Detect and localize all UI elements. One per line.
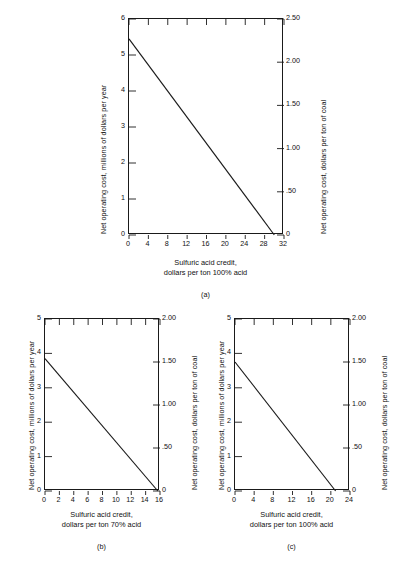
chart-panel-b: Net operating cost, millions of dollars … bbox=[18, 314, 198, 564]
x-axis-title-c-line1: Sulfuric acid credit, bbox=[250, 510, 333, 520]
y-axis-right-title-c: Net operating cost, dollars per ton of c… bbox=[381, 356, 390, 490]
y-right-tick-label-c-2: 1.00 bbox=[352, 399, 366, 408]
x-tick-label-c-6: 24 bbox=[345, 495, 353, 504]
y-tick-label-c-0: 0 bbox=[227, 485, 231, 494]
x-axis-title-a-line1: Sulfuric acid credit, bbox=[164, 258, 247, 268]
y-right-tick-label-a-4: 2.00 bbox=[286, 56, 300, 65]
y-right-tick-label-a-5: 2.50 bbox=[286, 13, 300, 22]
x-axis-title-b: Sulfuric acid credit, dollars per ton 70… bbox=[62, 510, 141, 530]
y-right-tick-label-a-3: 1.50 bbox=[286, 99, 300, 108]
y-tick-label-c-1: 1 bbox=[227, 451, 231, 460]
plot-line-b bbox=[45, 319, 160, 491]
y-tick-label-b-5: 5 bbox=[37, 313, 41, 322]
chart-panel-a: Net operating cost, millions of dollars … bbox=[88, 14, 328, 304]
x-tick-label-c-4: 16 bbox=[307, 495, 315, 504]
x-tick-label-a-1: 4 bbox=[145, 239, 149, 248]
x-axis-title-c-line2: dollars per ton 100% acid bbox=[250, 520, 333, 530]
plot-area-c bbox=[234, 318, 349, 490]
x-tick-label-b-6: 12 bbox=[126, 495, 134, 504]
y-tick-label-a-3: 3 bbox=[121, 121, 125, 130]
x-tick-label-b-1: 2 bbox=[56, 495, 60, 504]
x-axis-title-b-line2: dollars per ton 70% acid bbox=[62, 520, 141, 530]
x-tick-label-b-4: 8 bbox=[100, 495, 104, 504]
plot-area-b bbox=[44, 318, 159, 490]
y-right-tick-label-a-2: 1.00 bbox=[286, 143, 300, 152]
x-tick-label-c-1: 4 bbox=[251, 495, 255, 504]
x-tick-label-b-0: 0 bbox=[42, 495, 46, 504]
y-right-tick-label-c-4: 2.00 bbox=[352, 313, 366, 322]
x-tick-label-b-2: 4 bbox=[71, 495, 75, 504]
x-tick-label-b-7: 14 bbox=[141, 495, 149, 504]
y-tick-label-a-1: 1 bbox=[121, 193, 125, 202]
panel-label-a: (a) bbox=[201, 290, 210, 299]
y-right-tick-label-b-4: 2.00 bbox=[162, 313, 176, 322]
plot-line-a bbox=[129, 19, 284, 235]
y-tick-label-b-4: 4 bbox=[37, 347, 41, 356]
plot-line-c bbox=[235, 319, 350, 491]
x-axis-title-b-line1: Sulfuric acid credit, bbox=[62, 510, 141, 520]
y-right-tick-label-b-2: 1.00 bbox=[162, 399, 176, 408]
x-tick-label-a-0: 0 bbox=[126, 239, 130, 248]
x-axis-title-c: Sulfuric acid credit, dollars per ton 10… bbox=[250, 510, 333, 530]
y-axis-title-b: Net operating cost, millions of dollars … bbox=[28, 341, 37, 490]
y-right-tick-label-b-1: .50 bbox=[162, 442, 172, 451]
x-axis-title-a-line2: dollars per ton 100% acid bbox=[164, 268, 247, 278]
y-right-tick-label-c-3: 1.50 bbox=[352, 356, 366, 365]
y-axis-title-a: Net operating cost, millions of dollars … bbox=[100, 85, 109, 234]
x-tick-label-a-6: 24 bbox=[240, 239, 248, 248]
y-right-tick-label-c-0: 0 bbox=[352, 485, 356, 494]
x-tick-label-b-5: 10 bbox=[112, 495, 120, 504]
y-right-tick-label-a-1: .50 bbox=[286, 186, 296, 195]
x-tick-label-c-5: 20 bbox=[326, 495, 334, 504]
x-tick-label-b-8: 16 bbox=[155, 495, 163, 504]
chart-panel-c: Net operating cost, millions of dollars … bbox=[208, 314, 388, 564]
x-tick-label-c-0: 0 bbox=[232, 495, 236, 504]
y-axis-title-c: Net operating cost, millions of dollars … bbox=[218, 341, 227, 490]
y-right-tick-label-a-0: 0 bbox=[286, 229, 290, 238]
y-right-tick-label-b-3: 1.50 bbox=[162, 356, 176, 365]
y-axis-right-title-a: Net operating cost, dollars per ton of c… bbox=[320, 100, 329, 234]
y-tick-label-a-5: 5 bbox=[121, 49, 125, 58]
panel-label-b: (b) bbox=[97, 542, 106, 551]
y-axis-right-title-b: Net operating cost, dollars per ton of c… bbox=[191, 356, 200, 490]
y-tick-label-c-2: 2 bbox=[227, 416, 231, 425]
plot-area-a bbox=[128, 18, 283, 234]
figure-three-panel-net-operating-cost: Net operating cost, millions of dollars … bbox=[0, 0, 401, 571]
x-tick-label-a-5: 20 bbox=[221, 239, 229, 248]
y-tick-label-c-4: 4 bbox=[227, 347, 231, 356]
x-tick-label-a-7: 28 bbox=[260, 239, 268, 248]
y-tick-label-a-0: 0 bbox=[121, 229, 125, 238]
x-tick-label-a-2: 8 bbox=[165, 239, 169, 248]
y-tick-label-b-1: 1 bbox=[37, 451, 41, 460]
y-tick-label-b-2: 2 bbox=[37, 416, 41, 425]
x-tick-label-c-3: 12 bbox=[288, 495, 296, 504]
x-tick-label-a-4: 16 bbox=[202, 239, 210, 248]
x-tick-label-a-3: 12 bbox=[182, 239, 190, 248]
y-tick-label-c-5: 5 bbox=[227, 313, 231, 322]
x-tick-label-b-3: 6 bbox=[85, 495, 89, 504]
x-tick-label-a-8: 32 bbox=[279, 239, 287, 248]
x-axis-title-a: Sulfuric acid credit, dollars per ton 10… bbox=[164, 258, 247, 278]
x-tick-label-c-2: 8 bbox=[270, 495, 274, 504]
y-tick-label-c-3: 3 bbox=[227, 382, 231, 391]
y-tick-label-a-4: 4 bbox=[121, 85, 125, 94]
y-tick-label-a-2: 2 bbox=[121, 157, 125, 166]
y-tick-label-a-6: 6 bbox=[121, 13, 125, 22]
y-tick-label-b-0: 0 bbox=[37, 485, 41, 494]
y-right-tick-label-b-0: 0 bbox=[162, 485, 166, 494]
y-right-tick-label-c-1: .50 bbox=[352, 442, 362, 451]
panel-label-c: (c) bbox=[287, 542, 295, 551]
y-tick-label-b-3: 3 bbox=[37, 382, 41, 391]
